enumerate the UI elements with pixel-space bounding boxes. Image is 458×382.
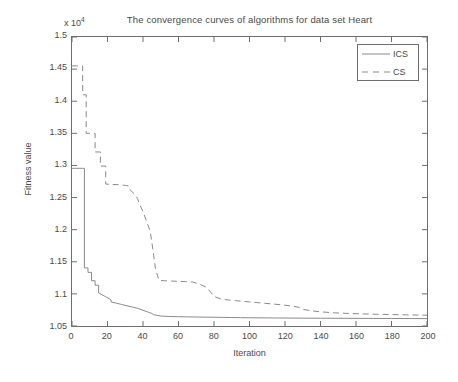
legend-line-sample-cs xyxy=(361,67,391,77)
y-axis-tick-labels: 1.051.11.151.21.251.31.351.41.451.5 xyxy=(30,36,67,327)
legend-item-ics: ICS xyxy=(358,45,420,63)
x-tick-label: 160 xyxy=(337,331,377,341)
y-axis-exponent-label: x 104 xyxy=(64,16,85,28)
x-tick-label: 140 xyxy=(301,331,341,341)
y-tick-label: 1.45 xyxy=(33,62,67,72)
y-tick-label: 1.25 xyxy=(33,192,67,202)
y-tick-label: 1.5 xyxy=(33,30,67,40)
legend-label-cs: CS xyxy=(393,67,406,77)
x-tick-label: 0 xyxy=(51,331,91,341)
y-tick-label: 1.35 xyxy=(33,127,67,137)
y-tick-label: 1.2 xyxy=(33,224,67,234)
y-tick-label: 1.05 xyxy=(33,321,67,331)
legend-label-ics: ICS xyxy=(393,49,408,59)
x-axis-title: Iteration xyxy=(71,348,428,358)
series-line-ics xyxy=(72,168,427,318)
x-tick-label: 20 xyxy=(87,331,127,341)
x-tick-label: 180 xyxy=(372,331,412,341)
x-tick-label: 60 xyxy=(158,331,198,341)
legend-line-sample-ics xyxy=(361,49,391,59)
x-tick-label: 120 xyxy=(265,331,305,341)
convergence-chart-figure: The convergence curves of algorithms for… xyxy=(0,0,458,382)
x-axis-tick-labels: 020406080100120140160180200 xyxy=(71,331,428,345)
x-tick-label: 100 xyxy=(230,331,270,341)
y-axis-exponent-power: 4 xyxy=(81,16,85,23)
y-axis-exponent-base: x 10 xyxy=(64,18,81,28)
x-tick-label: 40 xyxy=(122,331,162,341)
x-tick-label: 200 xyxy=(408,331,448,341)
y-tick-label: 1.3 xyxy=(33,159,67,169)
y-tick-label: 1.15 xyxy=(33,256,67,266)
y-tick-label: 1.1 xyxy=(33,289,67,299)
y-tick-label: 1.4 xyxy=(33,95,67,105)
legend-box: ICS CS xyxy=(357,44,419,81)
chart-title: The convergence curves of algorithms for… xyxy=(71,14,428,25)
legend-item-cs: CS xyxy=(358,63,420,81)
x-tick-label: 80 xyxy=(194,331,234,341)
series-line-cs xyxy=(72,66,427,315)
